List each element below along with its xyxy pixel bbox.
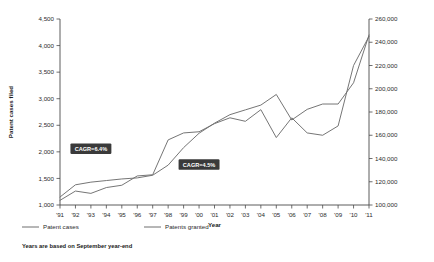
right-axis-tick-label: 200,000 bbox=[375, 85, 398, 92]
right-axis-tick-label: 180,000 bbox=[375, 108, 398, 115]
x-axis-tick-label: '95 bbox=[118, 211, 127, 218]
right-axis-tick-label: 160,000 bbox=[375, 131, 398, 138]
left-axis-title: Patent cases filed bbox=[7, 86, 14, 138]
cagr-annotation-label-1: CAGR=6.4% bbox=[75, 146, 108, 152]
right-axis-tick-label: 240,000 bbox=[375, 38, 398, 45]
chart-container: 1,0001,5002,0002,5003,0003,5004,0004,500… bbox=[0, 0, 434, 262]
right-axis-tick-label: 100,000 bbox=[375, 201, 398, 208]
right-axis-tick-label: 260,000 bbox=[375, 15, 398, 22]
cagr-annotation-label-2: CAGR=4.5% bbox=[183, 162, 216, 168]
x-axis-tick-label: '09 bbox=[334, 211, 343, 218]
left-axis-tick-label: 2,000 bbox=[39, 148, 55, 155]
legend-label-2: Patents granted bbox=[165, 223, 209, 230]
left-axis-tick-label: 4,500 bbox=[39, 15, 55, 22]
left-axis-tick-label: 1,000 bbox=[39, 201, 55, 208]
right-axis-tick-label: 120,000 bbox=[375, 178, 398, 185]
right-axis-tick-label: 140,000 bbox=[375, 155, 398, 162]
right-axis-tick-label: 220,000 bbox=[375, 62, 398, 69]
x-axis-tick-label: '91 bbox=[56, 211, 65, 218]
x-axis-tick-label: '92 bbox=[71, 211, 80, 218]
x-axis-tick-label: '01 bbox=[210, 211, 219, 218]
left-axis-tick-label: 2,500 bbox=[39, 121, 55, 128]
x-axis-tick-label: '94 bbox=[102, 211, 111, 218]
x-axis-tick-label: '08 bbox=[319, 211, 328, 218]
x-axis-tick-label: '96 bbox=[133, 211, 142, 218]
series-line-2 bbox=[60, 36, 369, 200]
x-axis-tick-label: '10 bbox=[350, 211, 359, 218]
x-axis-tick-label: '02 bbox=[226, 211, 235, 218]
x-axis-title: Year bbox=[208, 221, 222, 228]
x-axis-tick-label: '05 bbox=[272, 211, 281, 218]
left-axis-tick-label: 1,500 bbox=[39, 175, 55, 182]
left-axis-tick-label: 4,000 bbox=[39, 42, 55, 49]
left-axis-tick-label: 3,000 bbox=[39, 95, 55, 102]
dual-axis-line-chart: 1,0001,5002,0002,5003,0003,5004,0004,500… bbox=[0, 0, 434, 262]
series-line-1 bbox=[60, 35, 369, 197]
chart-footnote: Years are based on September year-end bbox=[22, 243, 133, 249]
x-axis-tick-label: '93 bbox=[87, 211, 96, 218]
left-axis-tick-label: 3,500 bbox=[39, 68, 55, 75]
x-axis-tick-label: '98 bbox=[164, 211, 173, 218]
x-axis-tick-label: '00 bbox=[195, 211, 204, 218]
x-axis-tick-label: '04 bbox=[257, 211, 266, 218]
x-axis-tick-label: '07 bbox=[303, 211, 312, 218]
legend-label-1: Patent cases bbox=[43, 223, 79, 230]
x-axis-tick-label: '99 bbox=[180, 211, 189, 218]
x-axis-tick-label: '97 bbox=[149, 211, 158, 218]
x-axis-tick-label: '03 bbox=[241, 211, 250, 218]
x-axis-tick-label: '11 bbox=[365, 211, 373, 218]
x-axis-tick-label: '06 bbox=[288, 211, 297, 218]
